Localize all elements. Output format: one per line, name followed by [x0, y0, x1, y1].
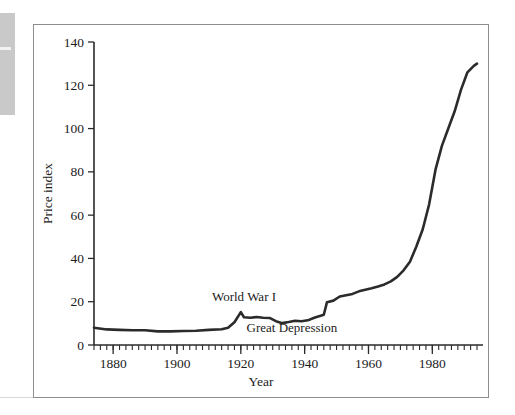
y-tick-label-40: 40	[71, 251, 85, 266]
x-tick-label-1940: 1940	[291, 356, 318, 371]
y-tick-label-120: 120	[64, 78, 85, 93]
y-tick-label-100: 100	[64, 121, 85, 136]
annotation-0: World War I	[212, 289, 276, 304]
x-tick-label-1900: 1900	[163, 356, 190, 371]
x-axis-tick-labels: 188019001920194019601980	[100, 356, 446, 371]
x-axis-title: Year	[249, 374, 274, 389]
y-tick-label-60: 60	[71, 208, 85, 223]
price-index-data-line	[94, 64, 477, 332]
y-axis-title: Price index	[40, 163, 55, 224]
y-axis-tick-labels: 020406080100120140	[64, 35, 85, 353]
x-tick-label-1880: 1880	[100, 356, 127, 371]
x-tick-label-1920: 1920	[227, 356, 254, 371]
price-index-line-chart: 020406080100120140 188019001920194019601…	[0, 0, 515, 415]
y-tick-label-140: 140	[64, 35, 85, 50]
y-tick-label-80: 80	[71, 164, 85, 179]
y-tick-label-0: 0	[77, 338, 84, 353]
x-tick-label-1980: 1980	[419, 356, 446, 371]
annotation-1: Great Depression	[247, 320, 338, 335]
y-axis-ticks	[88, 42, 94, 345]
chart-annotations: World War IGreat Depression	[212, 289, 338, 335]
y-tick-label-20: 20	[71, 294, 85, 309]
x-tick-label-1960: 1960	[355, 356, 382, 371]
